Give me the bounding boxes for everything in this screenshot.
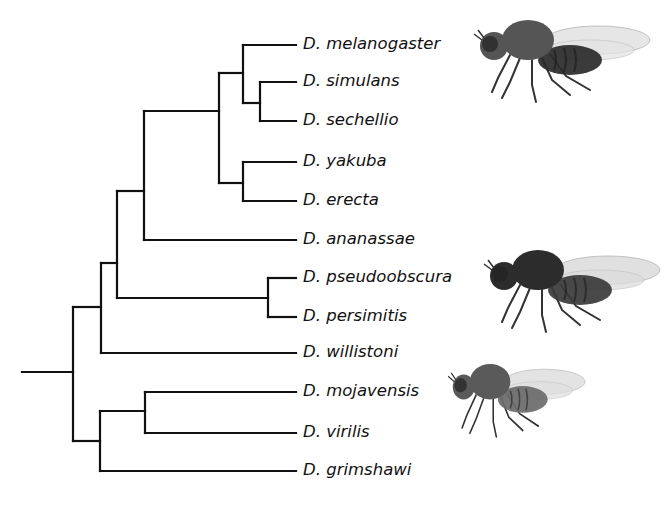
fly-illustration-mojavensis [448,364,585,437]
taxon-label: D. willistoni [303,344,398,361]
taxon-label: D. mojavensis [303,383,419,400]
fly-illustration-melanogaster [474,20,650,102]
taxon-label: D. ananassae [303,231,415,248]
taxon-label: D. simulans [303,73,400,90]
fly-thorax-icon [470,364,510,400]
taxon-label: D. sechellio [303,112,398,129]
fly-illustration-pseudoobscura [484,250,660,332]
taxon-label: D. persimitis [303,308,407,325]
fly-thorax-icon [502,20,554,60]
tree-branches [22,45,296,471]
taxon-label: D. pseudoobscura [303,269,452,286]
taxon-label: D. melanogaster [303,36,440,53]
fly-thorax-icon [512,250,564,290]
taxon-label: D. erecta [303,192,379,209]
taxon-label: D. yakuba [303,153,387,170]
taxon-label: D. grimshawi [303,462,411,479]
fly-illustrations [448,20,660,437]
taxon-label: D. virilis [303,424,370,441]
